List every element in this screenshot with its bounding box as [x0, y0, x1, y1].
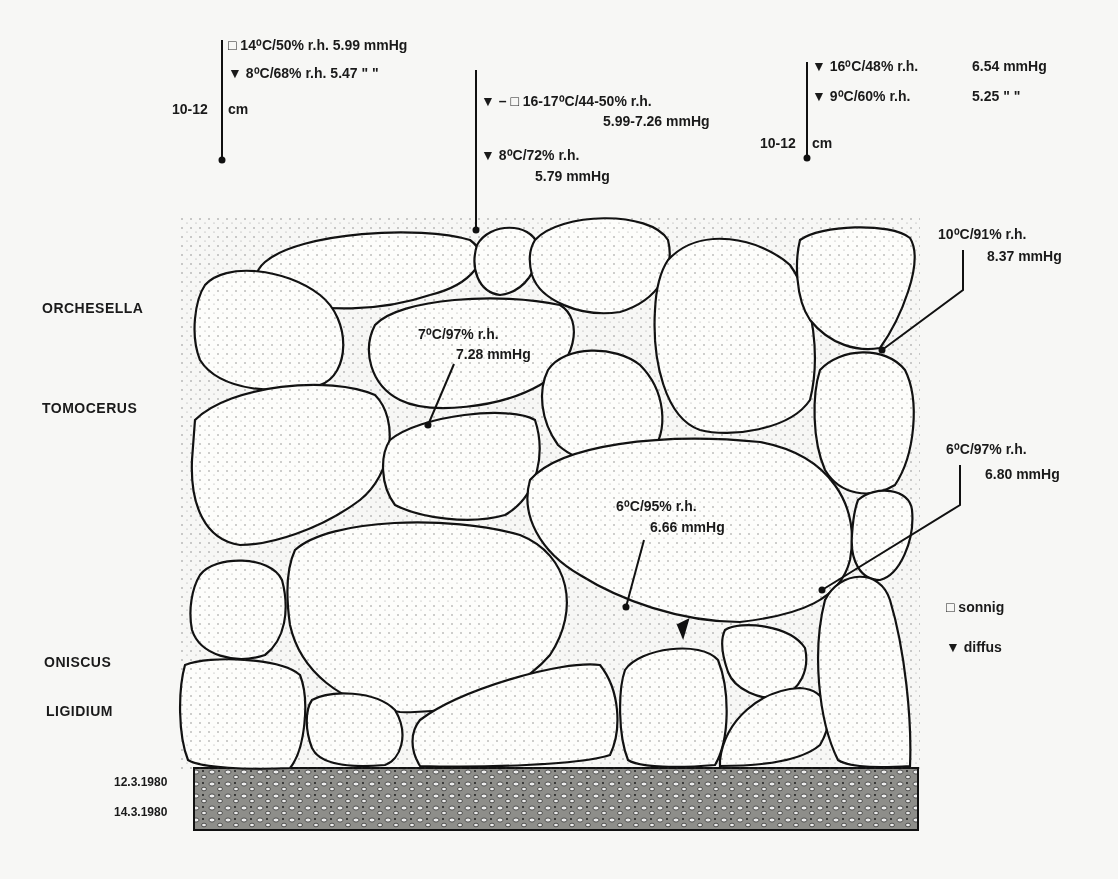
annotation-stone-large-line1: 6⁰C/95% r.h.	[616, 497, 697, 515]
annotation-right-top-depth: 10-12	[760, 134, 796, 152]
annotation-left-top-line2: ▼ 8⁰C/68% r.h. 5.47 " "	[228, 64, 379, 82]
annotation-left-top-unit: cm	[228, 100, 248, 118]
species-label-orchesella: ORCHESELLA	[42, 300, 143, 316]
square-icon: □	[946, 599, 954, 615]
annotation-stone-upper-line2: 7.28 mmHg	[456, 345, 531, 363]
annotation-right-middle-line2: 6.80 mmHg	[985, 465, 1060, 483]
date-label-2: 14.3.1980	[114, 805, 167, 819]
annotation-center-top-line4: 5.79 mmHg	[535, 167, 610, 185]
legend-label-diffuse: diffus	[964, 639, 1002, 655]
legend-label-sunny: sonnig	[958, 599, 1004, 615]
species-label-oniscus: ONISCUS	[44, 654, 111, 670]
date-label-1: 12.3.1980	[114, 775, 167, 789]
annotation-center-top-line2: 5.99-7.26 mmHg	[603, 112, 710, 130]
annotation-right-upper-line1: 10⁰C/91% r.h.	[938, 225, 1027, 243]
legend-item-sunny: □ sonnig	[946, 598, 1004, 616]
annotation-stone-upper-line1: 7⁰C/97% r.h.	[418, 325, 499, 343]
stone-texture	[180, 215, 920, 770]
annotation-stone-large-line2: 6.66 mmHg	[650, 518, 725, 536]
legend-item-diffuse: ▼ diffus	[946, 638, 1004, 656]
annotation-right-top-unit: cm	[812, 134, 832, 152]
species-label-ligidium: LIGIDIUM	[46, 703, 113, 719]
annotation-right-top-line1-value: 6.54 mmHg	[972, 57, 1047, 75]
annotation-right-top-line2: ▼ 9⁰C/60% r.h.	[812, 87, 910, 105]
annotation-right-top-line2-value: 5.25 " "	[972, 87, 1020, 105]
legend: □ sonnig ▼ diffus	[946, 598, 1004, 656]
annotation-left-top-depth: 10-12	[172, 100, 208, 118]
soil-substrate	[194, 768, 918, 830]
annotation-right-upper-line2: 8.37 mmHg	[987, 247, 1062, 265]
species-label-tomocerus: TOMOCERUS	[42, 400, 137, 416]
annotation-right-top-line1: ▼ 16⁰C/48% r.h.	[812, 57, 918, 75]
annotation-left-top-line1: □ 14⁰C/50% r.h. 5.99 mmHg	[228, 36, 407, 54]
annotation-center-top-line1: ▼ – □ 16-17⁰C/44-50% r.h.	[481, 92, 652, 110]
triangle-down-icon: ▼	[946, 639, 960, 655]
annotation-right-middle-line1: 6⁰C/97% r.h.	[946, 440, 1027, 458]
annotation-center-top-line3: ▼ 8⁰C/72% r.h.	[481, 146, 579, 164]
